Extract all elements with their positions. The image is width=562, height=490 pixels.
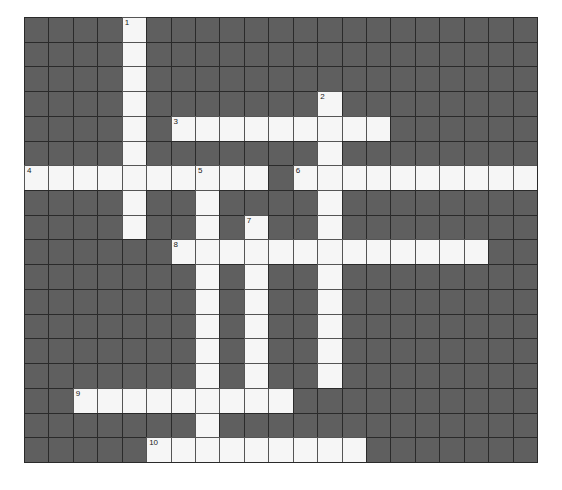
crossword-cell-open[interactable]: [244, 264, 268, 289]
crossword-cell-block: [293, 215, 317, 240]
crossword-cell-open[interactable]: [73, 165, 97, 190]
crossword-cell-open[interactable]: [244, 239, 268, 264]
crossword-cell-open[interactable]: [171, 388, 195, 413]
crossword-cell-open[interactable]: [366, 165, 390, 190]
crossword-cell-open[interactable]: [244, 314, 268, 339]
crossword-cell-open[interactable]: [342, 165, 366, 190]
crossword-cell-open[interactable]: 8: [171, 239, 195, 264]
crossword-cell-open[interactable]: [244, 388, 268, 413]
crossword-cell-open[interactable]: [122, 141, 146, 166]
crossword-cell-open[interactable]: [293, 116, 317, 141]
crossword-cell-open[interactable]: [317, 289, 341, 314]
crossword-cell-open[interactable]: [317, 116, 341, 141]
crossword-cell-open[interactable]: [415, 165, 439, 190]
crossword-cell-open[interactable]: 10: [146, 437, 170, 462]
crossword-cell-open[interactable]: [146, 165, 170, 190]
crossword-cell-open[interactable]: [97, 388, 121, 413]
crossword-cell-open[interactable]: [122, 66, 146, 91]
crossword-cell-open[interactable]: 5: [195, 165, 219, 190]
crossword-cell-open[interactable]: [317, 141, 341, 166]
crossword-cell-open[interactable]: 4: [24, 165, 48, 190]
crossword-cell-open[interactable]: [268, 116, 292, 141]
crossword-cell-open[interactable]: [122, 91, 146, 116]
crossword-cell-open[interactable]: [195, 264, 219, 289]
crossword-cell-open[interactable]: [317, 338, 341, 363]
crossword-cell-open[interactable]: [122, 116, 146, 141]
crossword-cell-open[interactable]: [219, 116, 243, 141]
crossword-cell-open[interactable]: 9: [73, 388, 97, 413]
crossword-cell-open[interactable]: [317, 437, 341, 462]
crossword-cell-block: [293, 314, 317, 339]
crossword-cell-block: [415, 66, 439, 91]
crossword-cell-open[interactable]: [317, 264, 341, 289]
crossword-cell-open[interactable]: [244, 165, 268, 190]
crossword-cell-open[interactable]: [122, 215, 146, 240]
crossword-cell-open[interactable]: [244, 338, 268, 363]
crossword-cell-open[interactable]: [195, 338, 219, 363]
crossword-cell-open[interactable]: [48, 165, 72, 190]
crossword-cell-open[interactable]: [244, 363, 268, 388]
crossword-cell-open[interactable]: [317, 314, 341, 339]
crossword-cell-open[interactable]: [219, 239, 243, 264]
crossword-cell-open[interactable]: [195, 388, 219, 413]
crossword-cell-block: [293, 413, 317, 438]
crossword-cell-open[interactable]: [195, 413, 219, 438]
crossword-cell-block: [464, 338, 488, 363]
crossword-cell-block: [122, 239, 146, 264]
crossword-cell-open[interactable]: [293, 437, 317, 462]
crossword-cell-open[interactable]: [464, 165, 488, 190]
crossword-cell-open[interactable]: [342, 437, 366, 462]
crossword-cell-open[interactable]: [390, 239, 414, 264]
crossword-cell-open[interactable]: [513, 165, 537, 190]
crossword-cell-open[interactable]: [244, 289, 268, 314]
crossword-cell-open[interactable]: [439, 239, 463, 264]
crossword-cell-open[interactable]: [342, 116, 366, 141]
crossword-cell-open[interactable]: [342, 239, 366, 264]
crossword-cell-open[interactable]: 7: [244, 215, 268, 240]
crossword-cell-open[interactable]: [219, 165, 243, 190]
crossword-cell-open[interactable]: [122, 42, 146, 67]
crossword-cell-open[interactable]: [122, 190, 146, 215]
crossword-cell-open[interactable]: [317, 215, 341, 240]
crossword-cell-open[interactable]: [268, 437, 292, 462]
crossword-cell-open[interactable]: [195, 314, 219, 339]
crossword-cell-open[interactable]: [317, 165, 341, 190]
crossword-cell-open[interactable]: [488, 165, 512, 190]
crossword-cell-open[interactable]: [195, 190, 219, 215]
crossword-cell-open[interactable]: [464, 239, 488, 264]
crossword-cell-open[interactable]: 3: [171, 116, 195, 141]
crossword-cell-open[interactable]: [268, 239, 292, 264]
crossword-cell-open[interactable]: [171, 165, 195, 190]
crossword-cell-open[interactable]: 6: [293, 165, 317, 190]
crossword-cell-open[interactable]: [244, 437, 268, 462]
crossword-cell-open[interactable]: [219, 437, 243, 462]
crossword-cell-open[interactable]: 1: [122, 17, 146, 42]
crossword-cell-open[interactable]: [195, 289, 219, 314]
crossword-cell-open[interactable]: [195, 215, 219, 240]
crossword-cell-open[interactable]: [366, 239, 390, 264]
crossword-cell-open[interactable]: 2: [317, 91, 341, 116]
crossword-cell-open[interactable]: [317, 190, 341, 215]
crossword-cell-open[interactable]: [195, 239, 219, 264]
crossword-cell-block: [513, 363, 537, 388]
crossword-cell-open[interactable]: [317, 239, 341, 264]
crossword-cell-open[interactable]: [195, 116, 219, 141]
crossword-cell-open[interactable]: [366, 116, 390, 141]
crossword-cell-open[interactable]: [317, 363, 341, 388]
crossword-cell-open[interactable]: [244, 116, 268, 141]
crossword-cell-open[interactable]: [122, 388, 146, 413]
crossword-cell-block: [219, 215, 243, 240]
crossword-cell-open[interactable]: [268, 388, 292, 413]
crossword-cell-open[interactable]: [146, 388, 170, 413]
crossword-cell-open[interactable]: [171, 437, 195, 462]
crossword-cell-open[interactable]: [390, 165, 414, 190]
crossword-cell-open[interactable]: [195, 437, 219, 462]
crossword-cell-open[interactable]: [97, 165, 121, 190]
crossword-cell-block: [122, 437, 146, 462]
crossword-cell-open[interactable]: [439, 165, 463, 190]
crossword-cell-open[interactable]: [122, 165, 146, 190]
crossword-cell-open[interactable]: [415, 239, 439, 264]
crossword-cell-open[interactable]: [293, 239, 317, 264]
crossword-cell-open[interactable]: [195, 363, 219, 388]
crossword-cell-open[interactable]: [219, 388, 243, 413]
